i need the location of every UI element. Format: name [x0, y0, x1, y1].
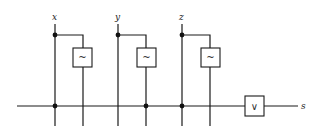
input-group-y: y ~ [114, 12, 156, 126]
junction-dot [144, 104, 149, 109]
tilde-symbol: ~ [142, 52, 150, 63]
or-symbol: ∨ [251, 101, 258, 112]
input-label-x: x [52, 12, 57, 22]
logic-circuit-diagram: x ~ y ~ z ~ ∨ s [0, 0, 319, 129]
tilde-symbol: ~ [78, 52, 86, 63]
tilde-symbol: ~ [206, 52, 214, 63]
input-group-x: x ~ [52, 12, 92, 126]
branch-wire [182, 35, 210, 48]
junction-dot [53, 104, 58, 109]
branch-wire [118, 35, 146, 48]
input-label-z: z [178, 12, 184, 22]
input-label-y: y [114, 12, 121, 22]
junction-dot [180, 104, 185, 109]
output-label-s: s [301, 101, 306, 111]
or-gate: ∨ [245, 96, 264, 116]
input-group-z: z ~ [178, 12, 220, 126]
branch-wire [55, 35, 83, 48]
